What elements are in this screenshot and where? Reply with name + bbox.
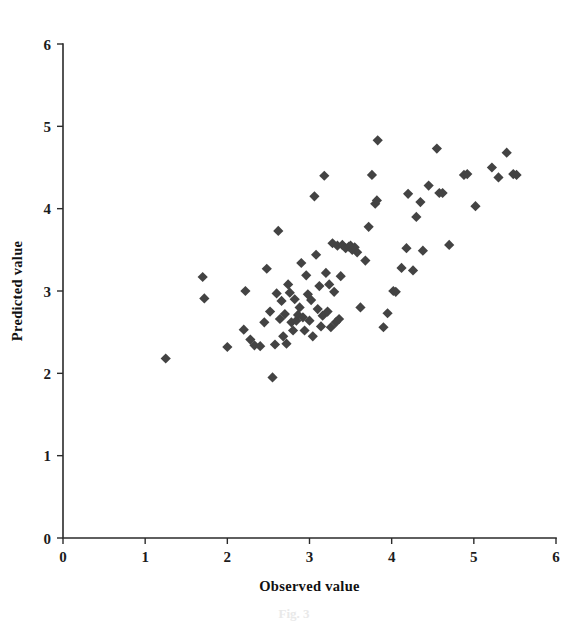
data-point-marker (382, 308, 392, 318)
y-tick-label: 6 (44, 37, 52, 53)
data-point-marker (299, 325, 309, 335)
data-point-marker (283, 279, 293, 289)
data-point-marker (424, 181, 434, 191)
data-point-marker (470, 201, 480, 211)
data-point-marker (329, 287, 339, 297)
data-point-marker (309, 191, 319, 201)
x-tick-label: 1 (141, 549, 149, 565)
data-point-marker (276, 296, 286, 306)
data-point-marker (161, 353, 171, 363)
x-axis-title: Observed value (259, 578, 360, 594)
data-point-marker (408, 265, 418, 275)
x-tick-label: 6 (552, 549, 560, 565)
data-point-marker (314, 281, 324, 291)
figure-container: 01234560123456Observed valuePredicted va… (0, 0, 588, 622)
data-point-marker (295, 302, 305, 312)
data-point-marker (272, 288, 282, 298)
x-tick-label: 5 (470, 549, 478, 565)
x-tick-label: 4 (388, 549, 396, 565)
data-point-marker (222, 342, 232, 352)
data-point-marker (418, 246, 428, 256)
data-point-marker (321, 268, 331, 278)
data-point-marker (288, 325, 298, 335)
data-point-marker (198, 272, 208, 282)
data-point-marker (262, 264, 272, 274)
data-point-marker (367, 170, 377, 180)
data-point-marker (270, 339, 280, 349)
data-point-marker (267, 372, 277, 382)
y-tick-label: 3 (44, 284, 52, 300)
data-point-marker (324, 279, 334, 289)
data-point-marker (316, 321, 326, 331)
data-point-marker (296, 258, 306, 268)
data-point-marker (403, 189, 413, 199)
data-point-marker (493, 172, 503, 182)
data-point-marker (265, 306, 275, 316)
data-point-marker (415, 197, 425, 207)
data-point-marker (239, 325, 249, 335)
data-point-marker (199, 293, 209, 303)
y-tick-label: 5 (44, 119, 52, 135)
scatter-plot: 01234560123456Observed valuePredicted va… (0, 0, 588, 622)
data-point-marker (502, 148, 512, 158)
data-point-marker (411, 212, 421, 222)
y-tick-label: 1 (44, 448, 52, 464)
data-point-marker (432, 143, 442, 153)
x-tick-label: 2 (224, 549, 232, 565)
data-point-marker (364, 222, 374, 232)
data-point-marker (273, 226, 283, 236)
data-point-marker (301, 270, 311, 280)
y-tick-label: 0 (44, 531, 52, 547)
data-point-marker (373, 135, 383, 145)
data-point-marker (355, 302, 365, 312)
x-tick-label: 0 (59, 549, 67, 565)
data-point-marker (311, 250, 321, 260)
data-point-marker (401, 243, 411, 253)
data-point-marker (336, 271, 346, 281)
data-point-marker (308, 331, 318, 341)
data-point-marker (240, 286, 250, 296)
y-axis-title: Predicted value (9, 241, 25, 342)
data-point-marker (378, 322, 388, 332)
data-series-group (161, 135, 522, 382)
data-point-marker (487, 162, 497, 172)
data-point-marker (259, 317, 269, 327)
data-point-marker (396, 263, 406, 273)
y-tick-label: 2 (44, 366, 52, 382)
figure-caption: Fig. 3 (278, 606, 310, 621)
data-point-marker (444, 240, 454, 250)
data-point-marker (360, 255, 370, 265)
y-tick-label: 4 (44, 201, 52, 217)
x-tick-label: 3 (306, 549, 314, 565)
data-point-marker (319, 171, 329, 181)
